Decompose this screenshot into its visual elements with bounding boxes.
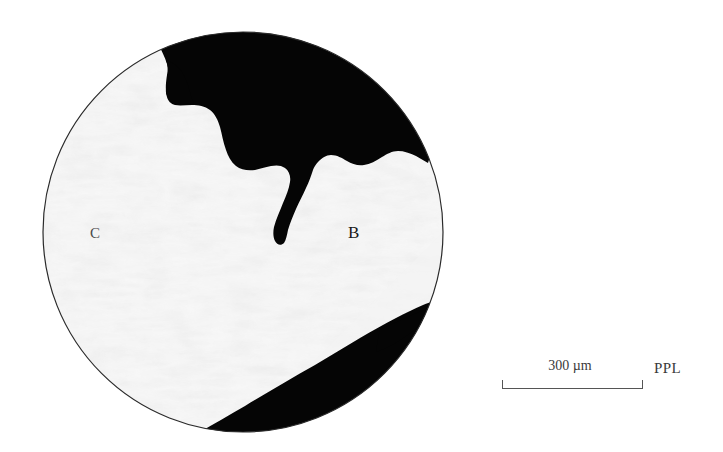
scale-bar-tick-right	[642, 380, 643, 389]
scale-bar: 300 µm PPL	[496, 358, 706, 398]
figure-root: C B 300 µm PPL	[0, 0, 723, 452]
scale-bar-rule	[502, 380, 643, 389]
phase-label-b: B	[348, 224, 359, 241]
phase-label-c: C	[90, 226, 100, 241]
scale-bar-line	[502, 388, 643, 389]
matrix-groundmass	[43, 26, 443, 442]
scale-bar-label: 300 µm	[496, 358, 644, 374]
light-mode-label: PPL	[654, 360, 681, 377]
